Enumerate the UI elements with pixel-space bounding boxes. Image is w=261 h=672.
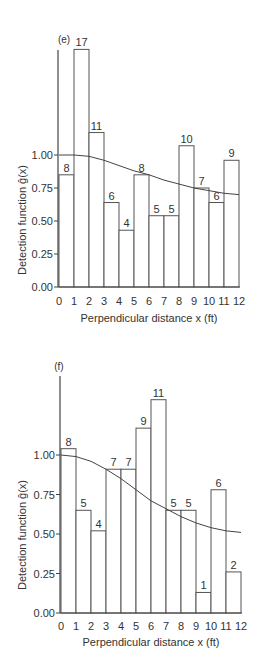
bar-count-label: 7 [110,456,116,468]
y-tick-label: 0.75 [32,182,53,194]
y-axis-label: Detection function ĝ(x) [16,480,28,590]
bar-count-label: 8 [63,162,69,174]
y-tick-label: 0.75 [34,489,55,501]
histogram-bar [149,216,164,287]
x-tick-label: 1 [71,295,77,307]
x-tick-label: 3 [101,295,107,307]
y-tick-label: 0.00 [34,607,55,619]
histogram-bar [181,510,196,613]
histogram-bar [76,510,91,613]
histogram-bar [166,510,181,613]
bar-count-label: 17 [75,36,87,48]
x-tick-label: 0 [56,295,62,307]
x-tick-label: 5 [131,295,137,307]
histogram-bar [119,230,134,287]
histogram-bar [194,188,209,287]
bar-count-label: 5 [153,203,159,215]
bar-count-label: 5 [168,203,174,215]
bar-count-label: 9 [228,147,234,159]
histogram-bar [226,572,241,613]
bar-count-label: 8 [65,436,71,448]
x-tick-label: 10 [205,620,217,632]
y-tick-label: 0.25 [32,248,53,260]
chart-panel-e: 8171164855107690.000.250.500.751.0001234… [16,34,245,324]
bar-count-label: 4 [123,217,129,229]
chart-panel-f: 85477911551620.000.250.500.751.000123456… [16,361,247,648]
histogram-bar [209,203,224,287]
x-tick-label: 12 [233,295,245,307]
panel-label: (f) [54,361,63,372]
x-tick-label: 8 [176,295,182,307]
bar-count-label: 11 [153,387,164,399]
bar-count-label: 4 [95,518,101,530]
x-tick-label: 6 [146,295,152,307]
bar-count-label: 5 [80,497,86,509]
x-tick-label: 5 [133,620,139,632]
x-tick-label: 8 [178,620,184,632]
bar-count-label: 1 [200,579,206,591]
bar-count-label: 5 [185,497,191,509]
bar-count-label: 11 [91,120,102,132]
x-tick-label: 4 [118,620,124,632]
histogram-bar [104,203,119,287]
histogram-bar [59,175,74,287]
y-tick-label: 0.50 [32,215,53,227]
bar-count-label: 6 [108,190,114,202]
x-tick-label: 10 [203,295,215,307]
bar-count-label: 9 [140,415,146,427]
bar-count-label: 6 [215,477,221,489]
bar-count-label: 7 [198,175,204,187]
y-tick-label: 1.00 [34,449,55,461]
x-tick-label: 7 [163,620,169,632]
histogram-bar [151,400,166,613]
x-tick-label: 7 [161,295,167,307]
y-tick-label: 0.25 [34,568,55,580]
x-tick-label: 2 [88,620,94,632]
x-tick-label: 2 [86,295,92,307]
x-tick-label: 9 [191,295,197,307]
x-tick-label: 11 [220,620,231,632]
y-tick-label: 0.50 [34,528,55,540]
histogram-bar [196,592,211,613]
histogram-bar [106,469,121,613]
histogram-bar [134,175,149,287]
x-axis-label: Perpendicular distance x (ft) [83,636,220,648]
histogram-bar [224,160,239,287]
x-axis-label: Perpendicular distance x (ft) [81,312,218,324]
bar-count-label: 10 [180,133,192,145]
x-tick-label: 4 [116,295,122,307]
x-tick-label: 0 [58,620,64,632]
bar-count-label: 7 [125,456,131,468]
y-tick-label: 0.00 [32,281,53,293]
x-tick-label: 1 [73,620,79,632]
y-axis-label: Detection function ĝ(x) [16,165,28,275]
histogram-bar [164,216,179,287]
histogram-bar [179,146,194,287]
detection-function-charts: 8171164855107690.000.250.500.751.0001234… [0,0,261,672]
y-tick-label: 1.00 [32,149,53,161]
bar-count-label: 2 [230,559,236,571]
histogram-bar [74,49,89,287]
histogram-bar [121,469,136,613]
bar-count-label: 5 [170,497,176,509]
x-tick-label: 3 [103,620,109,632]
x-tick-label: 12 [235,620,247,632]
histogram-bar [89,133,104,287]
x-tick-label: 11 [218,295,229,307]
histogram-bar [136,428,151,613]
histogram-bar [211,490,226,613]
histogram-bar [61,449,76,613]
x-tick-label: 6 [148,620,154,632]
histogram-bar [91,531,106,613]
x-tick-label: 9 [193,620,199,632]
panel-label: (e) [58,34,70,45]
